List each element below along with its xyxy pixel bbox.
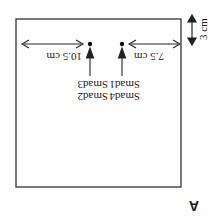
spot-smad2-smad3: [88, 42, 92, 46]
three-cm-arrow: [188, 15, 196, 45]
distance-label-left: 10.5 cm: [47, 51, 82, 62]
pointer-arrow-right-spot: [119, 48, 126, 76]
spot-label-smad4: Smad4: [109, 91, 140, 102]
distance-arrow-10-5: [22, 40, 83, 48]
diagram-lines: [0, 0, 212, 216]
top-offset-label: 3 cm: [198, 18, 209, 40]
spot-label-smad3: Smad3: [77, 79, 108, 90]
distance-label-right: 7.5 cm: [134, 51, 164, 62]
pointer-arrow-left-spot: [87, 48, 94, 76]
spot-label-smad2: Smad2: [77, 91, 108, 102]
spot-smad4-smad1: [120, 42, 124, 46]
spot-label-smad1: Smad1: [109, 79, 140, 90]
distance-arrow-7-5: [129, 40, 180, 48]
rotated-figure: 10.5 cm 7.5 cm Smad2 Smad3 Smad4 Smad1 3…: [0, 0, 212, 216]
panel-label: A: [189, 198, 199, 214]
